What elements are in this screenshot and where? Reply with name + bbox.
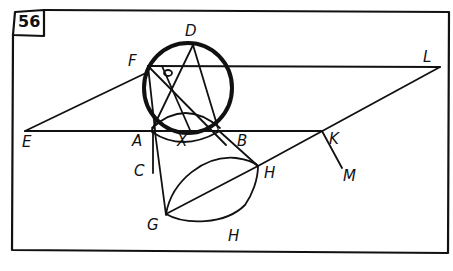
- line-FA: [148, 66, 155, 130]
- label-D: D: [185, 24, 197, 39]
- label-H-upper: H: [264, 166, 275, 181]
- line-AG: [155, 132, 166, 215]
- lens-lower-arc: [166, 166, 258, 221]
- label-F: F: [128, 54, 137, 69]
- label-C: C: [134, 164, 144, 179]
- label-X: X: [177, 134, 187, 149]
- label-A: A: [132, 134, 142, 149]
- label-B: B: [237, 134, 247, 149]
- label-M: M: [343, 169, 356, 184]
- figure-canvas: [0, 0, 453, 271]
- label-H-lower: H: [228, 229, 239, 244]
- figure-number: 56: [18, 14, 40, 30]
- label-G: G: [147, 218, 159, 233]
- label-L: L: [423, 50, 431, 65]
- line-KL: [258, 67, 440, 166]
- label-K: K: [329, 132, 339, 147]
- line-FL: [148, 66, 440, 67]
- line-EF: [25, 72, 148, 131]
- label-E: E: [22, 135, 31, 150]
